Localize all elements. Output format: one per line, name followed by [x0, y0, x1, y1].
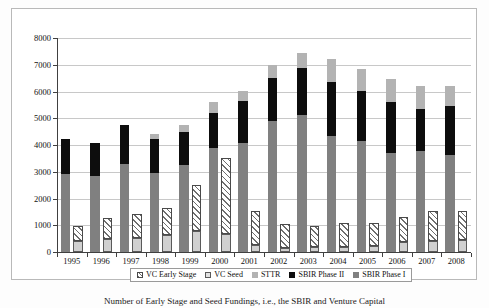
bar-segment-sbir-phase-i: [357, 141, 367, 252]
bar-segment-sbir-phase-ii: [268, 78, 278, 121]
gridline: [57, 118, 471, 119]
x-axis-tick-label: 2006: [389, 257, 406, 266]
bar-segment-sttr: [386, 79, 396, 102]
bar-sbir-1997: [120, 125, 130, 252]
bar-segment-sttr: [327, 59, 337, 83]
x-axis-tick-mark: [353, 253, 354, 257]
bar-segment-vc-early-stage: [369, 223, 379, 245]
vc-early-stage-swatch: [137, 272, 143, 278]
x-axis-tick-label: 2007: [418, 257, 435, 266]
bar-segment-sbir-phase-ii: [209, 113, 219, 149]
bar-segment-sbir-phase-ii: [61, 139, 71, 174]
bar-segment-vc-early-stage: [132, 214, 142, 238]
y-axis-tick-mark: [53, 38, 57, 39]
bar-sbir-2001: [238, 91, 248, 252]
bar-vc-2006: [399, 217, 409, 252]
bar-vc-1996: [103, 218, 113, 252]
x-axis-tick-mark: [471, 253, 472, 257]
legend-label: SBIR Phase II: [298, 271, 344, 279]
bar-segment-sbir-phase-ii: [327, 82, 337, 136]
y-axis-tick-mark: [53, 145, 57, 146]
bar-sbir-2007: [416, 86, 426, 252]
x-axis-tick-label: 2004: [329, 257, 346, 266]
bar-sbir-1998: [150, 134, 160, 252]
x-axis-tick-label: 2008: [448, 257, 465, 266]
bar-segment-vc-seed: [192, 231, 202, 252]
gridline: [57, 92, 471, 93]
x-axis-tick-mark: [382, 253, 383, 257]
x-axis-tick-mark: [264, 253, 265, 257]
x-axis-tick-label: 1999: [182, 257, 199, 266]
legend-label: VC Early Stage: [146, 271, 196, 279]
bar-sbir-1995: [61, 139, 71, 252]
bar-segment-sbir-phase-i: [179, 165, 189, 252]
plot-area: 010002000300040005000600070008000 199519…: [57, 38, 471, 253]
bar-segment-sbir-phase-ii: [150, 139, 160, 174]
bar-sbir-1996: [90, 143, 100, 252]
y-axis-tick-label: 7000: [34, 61, 51, 70]
y-axis-tick-label: 0: [47, 248, 51, 257]
x-axis-tick-mark: [175, 253, 176, 257]
bar-vc-2004: [339, 223, 349, 252]
y-axis-tick-label: 8000: [34, 34, 51, 43]
x-axis-tick-mark: [146, 253, 147, 257]
bar-segment-sbir-phase-i: [238, 143, 248, 252]
bar-segment-sttr: [209, 102, 219, 113]
bar-segment-vc-early-stage: [458, 211, 468, 240]
bar-segment-vc-seed: [103, 239, 113, 252]
bar-sbir-2003: [297, 53, 307, 252]
figure-container: 010002000300040005000600070008000 199519…: [0, 0, 489, 308]
bar-segment-sbir-phase-i: [327, 136, 337, 252]
bar-segment-vc-seed: [221, 234, 231, 252]
y-axis-tick-label: 1000: [34, 221, 51, 230]
bar-segment-sbir-phase-ii: [120, 125, 130, 164]
figure-caption: Number of Early Stage and Seed Fundings,…: [0, 296, 489, 307]
chart-legend: VC Early StageVC SeedSTTRSBIR Phase IISB…: [130, 268, 412, 282]
x-axis-tick-mark: [323, 253, 324, 257]
bar-segment-sbir-phase-i: [416, 151, 426, 252]
legend-item: VC Early Stage: [137, 271, 196, 279]
y-axis-tick-mark: [53, 172, 57, 173]
bar-segment-vc-early-stage: [428, 211, 438, 240]
y-axis-tick-mark: [53, 118, 57, 119]
bar-vc-2003: [310, 226, 320, 252]
x-axis-tick-mark: [87, 253, 88, 257]
bar-sbir-2005: [357, 69, 367, 253]
bar-segment-sbir-phase-ii: [238, 101, 248, 143]
y-axis-tick-mark: [53, 199, 57, 200]
bar-segment-sbir-phase-i: [268, 121, 278, 252]
bar-segment-sttr: [150, 134, 160, 139]
y-axis-tick-label: 2000: [34, 194, 51, 203]
y-axis-tick-label: 5000: [34, 114, 51, 123]
x-axis-tick-mark: [294, 253, 295, 257]
bar-sbir-1999: [179, 125, 189, 252]
x-axis-tick-label: 1997: [122, 257, 139, 266]
bar-segment-vc-early-stage: [280, 224, 290, 247]
bar-vc-2007: [428, 211, 438, 252]
bar-segment-sttr: [238, 91, 248, 101]
bar-segment-sbir-phase-ii: [445, 106, 455, 155]
bar-segment-vc-early-stage: [103, 218, 113, 239]
vc-seed-swatch: [205, 272, 211, 278]
bar-segment-vc-seed: [399, 242, 409, 252]
bar-sbir-2006: [386, 79, 396, 252]
bar-vc-2001: [251, 211, 261, 252]
gridline: [57, 65, 471, 66]
bar-segment-sbir-phase-ii: [357, 91, 367, 141]
bar-segment-vc-early-stage: [192, 185, 202, 231]
x-axis-tick-label: 2001: [241, 257, 258, 266]
bar-segment-vc-seed: [132, 238, 142, 252]
y-axis-tick-label: 3000: [34, 168, 51, 177]
bar-vc-2002: [280, 224, 290, 252]
sttr-swatch: [252, 272, 258, 278]
bar-segment-sbir-phase-ii: [179, 132, 189, 165]
bar-vc-1997: [132, 214, 142, 252]
bar-sbir-2004: [327, 59, 337, 252]
bar-segment-sttr: [357, 69, 367, 91]
x-axis-tick-mark: [205, 253, 206, 257]
bar-segment-sbir-phase-i: [120, 164, 130, 252]
bar-sbir-2000: [209, 102, 219, 252]
bar-segment-sttr: [445, 86, 455, 106]
y-axis-tick-mark: [53, 225, 57, 226]
bar-segment-vc-early-stage: [339, 223, 349, 247]
